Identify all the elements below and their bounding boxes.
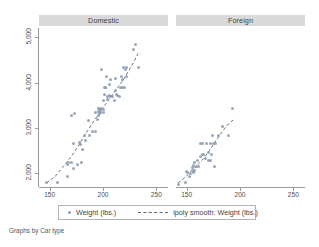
legend-label-lpoly: lpoly smooth: Weight (lbs.) xyxy=(173,209,258,216)
legend-entry-lpoly: lpoly smooth: Weight (lbs.) xyxy=(138,209,258,216)
legend-label-weight: Weight (lbs.) xyxy=(76,209,116,216)
scatter-point xyxy=(227,134,230,137)
chart-legend: Weight (lbs.) lpoly smooth: Weight (lbs.… xyxy=(58,205,256,220)
x-axis-tick-label: 250 xyxy=(281,192,305,199)
legend-dashed-line-icon xyxy=(138,212,168,213)
graph-caption: Graphs by Car type xyxy=(9,228,64,234)
legend-entry-weight: Weight (lbs.) xyxy=(68,209,116,216)
scatter-point xyxy=(210,153,213,156)
stata-graph-figure: Domestic Foreign 2,0003,0004,0005,000 15… xyxy=(0,0,319,247)
scatter-point xyxy=(211,134,214,137)
scatter-point xyxy=(196,159,199,162)
scatter-point xyxy=(197,165,200,168)
scatter-point xyxy=(209,159,212,162)
scatter-point xyxy=(193,169,196,172)
scatter-point xyxy=(213,165,216,168)
legend-marker-icon xyxy=(68,211,71,214)
scatter-point xyxy=(177,183,180,186)
scatter-point xyxy=(193,161,196,164)
x-axis-tick-label: 150 xyxy=(175,192,199,199)
x-axis-tick-label: 200 xyxy=(228,192,252,199)
